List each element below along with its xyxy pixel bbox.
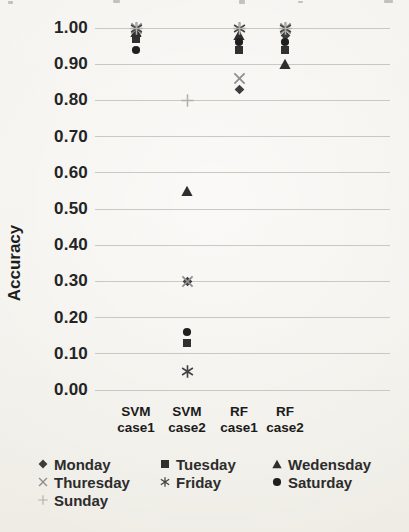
point-monday-2 <box>234 84 245 95</box>
point-tuesday-1 <box>182 338 192 348</box>
y-tick-label: 0.40 <box>28 235 88 255</box>
gridline <box>95 281 390 282</box>
legend-item-tuesday: Tuesday <box>160 456 236 472</box>
gridline <box>95 390 390 391</box>
gridline <box>95 353 390 354</box>
y-tick-label: 0.10 <box>28 344 88 364</box>
y-tick-label: 0.90 <box>28 54 88 74</box>
circle-marker-icon <box>272 477 282 487</box>
gridline <box>95 245 390 246</box>
x-marker-icon <box>38 477 48 487</box>
gridline <box>95 136 390 137</box>
gridline <box>95 100 390 101</box>
y-tick-label: 0.70 <box>28 127 88 147</box>
x-category-label-4: RF case2 <box>253 404 317 436</box>
point-thuresday-1 <box>181 275 194 288</box>
legend-label: Friday <box>176 474 221 491</box>
asterisk-marker-icon <box>160 477 170 487</box>
point-sunday-3 <box>279 22 292 35</box>
point-sunday-2 <box>233 22 246 35</box>
diamond-marker-icon <box>38 459 48 469</box>
legend-item-wedensday: Wedensday <box>272 456 371 472</box>
legend-item-thuresday: Thuresday <box>38 474 130 490</box>
y-tick-label: 0.30 <box>28 271 88 291</box>
y-tick-label: 0.80 <box>28 90 88 110</box>
plus-marker-icon <box>38 495 48 505</box>
y-tick-label: 0.00 <box>28 380 88 400</box>
y-tick-label: 0.60 <box>28 163 88 183</box>
legend-label: Sunday <box>54 492 108 509</box>
triangle-marker-icon <box>272 459 282 469</box>
gridline <box>95 317 390 318</box>
point-wedensday-3 <box>279 58 291 70</box>
point-saturday-1 <box>182 327 192 337</box>
point-saturday-3 <box>280 37 290 47</box>
legend-label: Wedensday <box>288 456 371 473</box>
point-sunday-1 <box>181 94 194 107</box>
y-tick-label: 0.50 <box>28 199 88 219</box>
legend-item-sunday: Sunday <box>38 492 108 508</box>
y-tick-label: 1.00 <box>28 18 88 38</box>
accuracy-scatter-chart: 1.000.900.800.700.600.500.400.300.200.10… <box>0 0 409 532</box>
legend-item-monday: Monday <box>38 456 111 472</box>
point-wedensday-1 <box>181 185 193 197</box>
y-axis-title: Accuracy <box>5 213 27 313</box>
point-saturday-0 <box>131 45 141 55</box>
legend-label: Tuesday <box>176 456 236 473</box>
point-thuresday-2 <box>233 72 246 85</box>
legend-label: Thuresday <box>54 474 130 491</box>
legend-item-saturday: Saturday <box>272 474 352 490</box>
gridline <box>95 172 390 173</box>
point-friday-1 <box>181 365 194 378</box>
square-marker-icon <box>160 459 170 469</box>
gridline <box>95 64 390 65</box>
point-saturday-2 <box>234 37 244 47</box>
y-tick-label: 0.20 <box>28 308 88 328</box>
legend-label: Monday <box>54 456 111 473</box>
legend-item-friday: Friday <box>160 474 221 490</box>
point-sunday-0 <box>130 22 143 35</box>
gridline <box>95 209 390 210</box>
legend-label: Saturday <box>288 474 352 491</box>
